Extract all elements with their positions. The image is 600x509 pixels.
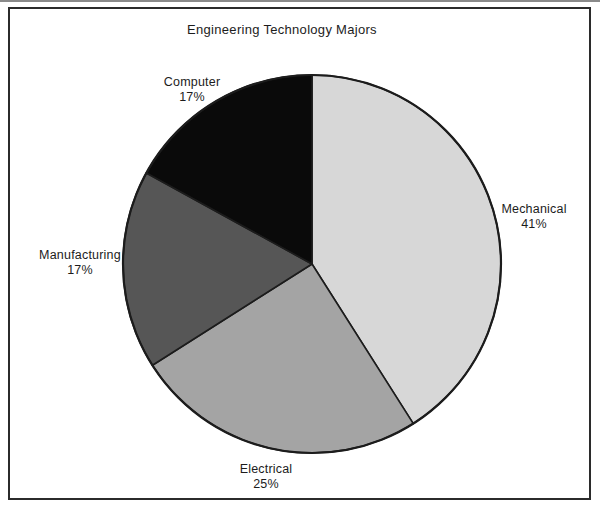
pie-label-name: Computer [164, 75, 220, 90]
pie-label-electrical: Electrical25% [240, 462, 293, 493]
pie-label-name: Manufacturing [39, 248, 121, 263]
pie-label-percent: 17% [39, 263, 121, 278]
scanned-figure-page: Engineering Technology Majors Mechanical… [0, 0, 600, 509]
pie-label-percent: 17% [164, 90, 220, 105]
pie-label-computer: Computer17% [164, 75, 220, 106]
pie-label-percent: 25% [240, 477, 293, 492]
pie-label-name: Mechanical [501, 202, 566, 217]
pie-label-manufacturing: Manufacturing17% [39, 248, 121, 279]
pie-label-percent: 41% [501, 217, 566, 232]
pie-label-mechanical: Mechanical41% [501, 202, 566, 233]
pie-label-name: Electrical [240, 462, 293, 477]
